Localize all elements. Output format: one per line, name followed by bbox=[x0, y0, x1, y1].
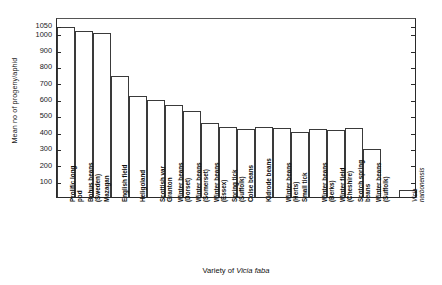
x-tick-label: Scotch springbeans bbox=[357, 160, 371, 202]
y-tick-mark bbox=[57, 27, 61, 28]
y-tick-mark-right bbox=[411, 101, 415, 102]
x-tick-label: Scottish varGranton bbox=[159, 166, 173, 202]
x-tick-label: Winter beans(Suffolk) bbox=[375, 163, 389, 202]
x-tick-label: Winter beans(Herts) bbox=[285, 163, 299, 202]
y-tick-label: 400 bbox=[40, 129, 52, 136]
y-tick-mark-right bbox=[411, 84, 415, 85]
x-tick-label: English field bbox=[121, 165, 128, 202]
x-tick-label-line: (Somerset) bbox=[202, 169, 209, 202]
x-tick-label-line: narbonensis bbox=[418, 168, 425, 202]
x-tick-label: Winter beans(Dorset) bbox=[177, 163, 191, 202]
y-tick-mark bbox=[57, 134, 61, 135]
x-tick-label: Colse beans bbox=[247, 165, 254, 202]
x-tick-label-line: Winter beans bbox=[195, 163, 202, 202]
y-tick-mark bbox=[57, 84, 61, 85]
x-tick-label-line: (Cheshire) bbox=[346, 171, 353, 202]
x-tick-label-line: (Herts) bbox=[292, 182, 299, 202]
x-tick-label-line: Mazagan bbox=[103, 175, 110, 202]
x-tick-label: Vicianarbonensis bbox=[411, 168, 425, 202]
y-tick-mark-right bbox=[411, 35, 415, 36]
x-tick-label-line: Winter beans bbox=[285, 163, 292, 202]
y-tick-mark bbox=[57, 35, 61, 36]
x-tick-label: Winter beans(Somerset) bbox=[195, 163, 209, 202]
x-tick-label-line: Scottish var bbox=[159, 166, 166, 202]
x-tick-label-line: Winter beans bbox=[375, 163, 382, 202]
x-tick-label-line: Kidrode beans bbox=[265, 158, 272, 202]
y-axis-title: Mean no of progeny/aphid bbox=[10, 21, 19, 181]
x-tick-label: Mazagan bbox=[103, 175, 110, 202]
y-tick-label: 900 bbox=[40, 47, 52, 54]
y-tick-mark-right bbox=[411, 68, 415, 69]
x-tick-label-line: Bohus beans bbox=[87, 162, 94, 202]
y-tick-label: 1050 bbox=[36, 22, 52, 29]
x-tick-label-line: Vicia bbox=[411, 188, 418, 202]
x-tick-label-line: pod bbox=[76, 190, 83, 202]
y-tick-mark bbox=[57, 150, 61, 151]
x-tick-label-line: Prolific long bbox=[69, 166, 76, 202]
bar-chart-figure: Mean no of progeny/aphid 100200300400500… bbox=[0, 0, 442, 285]
y-tick-label: 300 bbox=[40, 145, 52, 152]
x-tick-label-line: Heligoland bbox=[139, 170, 146, 202]
x-tick-label-line: (Suffolk) bbox=[382, 176, 389, 202]
x-tick-label-line: Granton bbox=[166, 178, 173, 203]
x-tick-label: Small tick bbox=[301, 173, 308, 202]
y-tick-label: 100 bbox=[40, 178, 52, 185]
x-axis-title: Variety of Vicia faba bbox=[56, 266, 416, 275]
x-axis-title-italic: Vicia faba bbox=[236, 266, 269, 275]
y-axis-tick-labels: 10020030040050060070080090010001050 bbox=[22, 0, 52, 285]
x-tick-label: Bohus beans(Sweden) bbox=[87, 162, 101, 202]
x-tick-label: Winter beans(Berks) bbox=[321, 163, 335, 202]
y-tick-mark-right bbox=[411, 52, 415, 53]
y-tick-mark bbox=[57, 117, 61, 118]
y-tick-mark bbox=[57, 166, 61, 167]
x-tick-label-line: Winter field bbox=[339, 168, 346, 202]
y-tick-label: 800 bbox=[40, 63, 52, 70]
x-tick-label-line: Scotch spring bbox=[357, 160, 364, 202]
x-tick-label-line: English field bbox=[121, 165, 128, 202]
y-tick-mark bbox=[57, 101, 61, 102]
y-tick-mark bbox=[57, 183, 61, 184]
x-tick-label-line: Spring tick bbox=[231, 169, 238, 202]
y-tick-mark bbox=[57, 52, 61, 53]
x-tick-label: Winter beans(Essex) bbox=[213, 163, 227, 202]
x-tick-label-line: beans bbox=[364, 184, 371, 202]
y-tick-label: 700 bbox=[40, 80, 52, 87]
y-tick-mark-right bbox=[411, 134, 415, 135]
y-tick-mark bbox=[57, 68, 61, 69]
x-tick-label: Prolific longpod bbox=[69, 166, 83, 202]
x-tick-label-line: (Essex) bbox=[220, 180, 227, 202]
x-tick-label: Spring tick(Suffolk) bbox=[231, 169, 245, 202]
y-tick-mark-right bbox=[411, 150, 415, 151]
y-tick-label: 1000 bbox=[36, 31, 52, 38]
y-tick-mark-right bbox=[411, 27, 415, 28]
x-tick-label-line: Winter beans bbox=[321, 163, 328, 202]
y-tick-label: 600 bbox=[40, 96, 52, 103]
x-tick-label: Heligoland bbox=[139, 170, 146, 202]
y-tick-mark-right bbox=[411, 117, 415, 118]
x-tick-label-line: (Suffolk) bbox=[238, 176, 245, 202]
x-tick-label-line: (Sweden) bbox=[94, 174, 101, 202]
x-tick-label: Winter field(Cheshire) bbox=[339, 168, 353, 202]
x-tick-label-line: (Berks) bbox=[328, 180, 335, 202]
x-tick-label: Kidrode beans bbox=[265, 158, 272, 202]
x-tick-label-line: Winter beans bbox=[213, 163, 220, 202]
x-axis-title-plain: Variety of bbox=[203, 266, 235, 275]
x-tick-label-line: Colse beans bbox=[247, 165, 254, 202]
x-tick-label-line: (Dorset) bbox=[184, 178, 191, 202]
y-tick-label: 500 bbox=[40, 112, 52, 119]
x-tick-label-line: Winter beans bbox=[177, 163, 184, 202]
y-tick-label: 200 bbox=[40, 162, 52, 169]
x-tick-label-line: Small tick bbox=[301, 173, 308, 202]
